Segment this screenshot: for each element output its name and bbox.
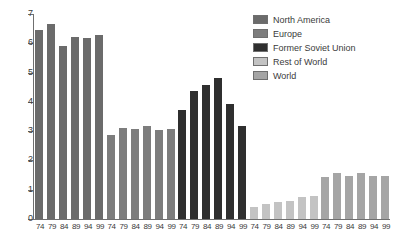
x-label-group: 747984899499 (34, 222, 106, 232)
legend-item[interactable]: Rest of World (253, 56, 356, 67)
bar (261, 203, 271, 219)
y-tick-label: 7 (9, 9, 33, 18)
legend-swatch-icon (253, 15, 268, 24)
x-tick-label: 79 (46, 222, 58, 232)
bar (225, 103, 235, 219)
bar (70, 36, 80, 219)
x-tick-label: 99 (166, 222, 178, 232)
bar (380, 175, 390, 220)
x-tick-label: 99 (380, 222, 392, 232)
legend-item-label: Former Soviet Union (273, 43, 356, 53)
bar-group (106, 14, 176, 219)
legend-item[interactable]: North America (253, 14, 356, 25)
x-tick-label: 79 (261, 222, 273, 232)
x-tick-label: 89 (142, 222, 154, 232)
x-axis-line (33, 219, 390, 220)
x-tick-label: 94 (82, 222, 94, 232)
bar (118, 127, 128, 219)
legend-swatch-icon (253, 57, 268, 66)
legend-item[interactable]: World (253, 70, 356, 81)
bar-group (34, 14, 104, 219)
bar (166, 128, 176, 219)
x-tick-label: 84 (130, 222, 142, 232)
x-label-group: 747984899499 (106, 222, 178, 232)
y-tick-label: 6 (9, 38, 33, 47)
x-tick-label: 79 (189, 222, 201, 232)
x-tick-label: 74 (106, 222, 118, 232)
x-tick-label: 94 (368, 222, 380, 232)
x-tick-label: 99 (237, 222, 249, 232)
x-label-group: 747984899499 (249, 222, 321, 232)
legend-item-label: Rest of World (273, 57, 327, 67)
bar (213, 77, 223, 219)
x-tick-label: 89 (70, 222, 82, 232)
bar (332, 172, 342, 219)
bar (58, 45, 68, 219)
x-tick-label: 84 (58, 222, 70, 232)
bar (142, 125, 152, 219)
bar (46, 23, 56, 219)
y-tick-label: 3 (9, 126, 33, 135)
bar (130, 128, 140, 219)
legend-item-label: North America (273, 15, 330, 25)
bar (309, 195, 319, 219)
x-tick-label: 99 (94, 222, 106, 232)
bar (201, 84, 211, 219)
bar (249, 206, 259, 219)
x-tick-label: 89 (285, 222, 297, 232)
bar-group (177, 14, 247, 219)
bar (177, 109, 187, 219)
bar-chart: 01234567 7479848994997479848994997479848… (0, 0, 397, 249)
x-tick-label: 74 (177, 222, 189, 232)
bar (368, 175, 378, 220)
x-tick-label: 74 (320, 222, 332, 232)
x-tick-label: 84 (273, 222, 285, 232)
x-axis-tick-labels: 7479848994997479848994997479848994997479… (34, 222, 390, 236)
y-axis-ticks: 01234567 (0, 0, 33, 249)
x-tick-label: 84 (344, 222, 356, 232)
x-tick-label: 99 (309, 222, 321, 232)
bar (154, 129, 164, 219)
legend-item-label: World (273, 71, 296, 81)
x-label-group: 747984899499 (177, 222, 249, 232)
x-tick-label: 74 (34, 222, 46, 232)
x-tick-label: 79 (332, 222, 344, 232)
x-tick-label: 94 (225, 222, 237, 232)
bar (320, 176, 330, 219)
bar (34, 29, 44, 219)
y-tick-label: 0 (9, 214, 33, 223)
legend-swatch-icon (253, 71, 268, 80)
x-tick-label: 74 (249, 222, 261, 232)
bar (82, 37, 92, 219)
y-tick-label: 4 (9, 97, 33, 106)
x-tick-label: 94 (297, 222, 309, 232)
bar (285, 200, 295, 219)
y-tick-label: 5 (9, 68, 33, 77)
bar (106, 134, 116, 219)
chart-legend: North AmericaEuropeFormer Soviet UnionRe… (253, 14, 356, 81)
bar (356, 172, 366, 219)
x-tick-label: 89 (356, 222, 368, 232)
legend-swatch-icon (253, 29, 268, 38)
x-tick-label: 79 (118, 222, 130, 232)
bar (273, 201, 283, 219)
legend-swatch-icon (253, 43, 268, 52)
y-tick-label: 1 (9, 185, 33, 194)
bar (94, 34, 104, 219)
legend-item[interactable]: Former Soviet Union (253, 42, 356, 53)
legend-item-label: Europe (273, 29, 302, 39)
bar (237, 125, 247, 219)
y-tick-label: 2 (9, 155, 33, 164)
x-label-group: 747984899499 (320, 222, 392, 232)
x-tick-label: 94 (154, 222, 166, 232)
bar (344, 175, 354, 220)
bar (189, 90, 199, 219)
legend-item[interactable]: Europe (253, 28, 356, 39)
bar (297, 196, 307, 219)
x-tick-label: 89 (213, 222, 225, 232)
x-tick-label: 84 (201, 222, 213, 232)
